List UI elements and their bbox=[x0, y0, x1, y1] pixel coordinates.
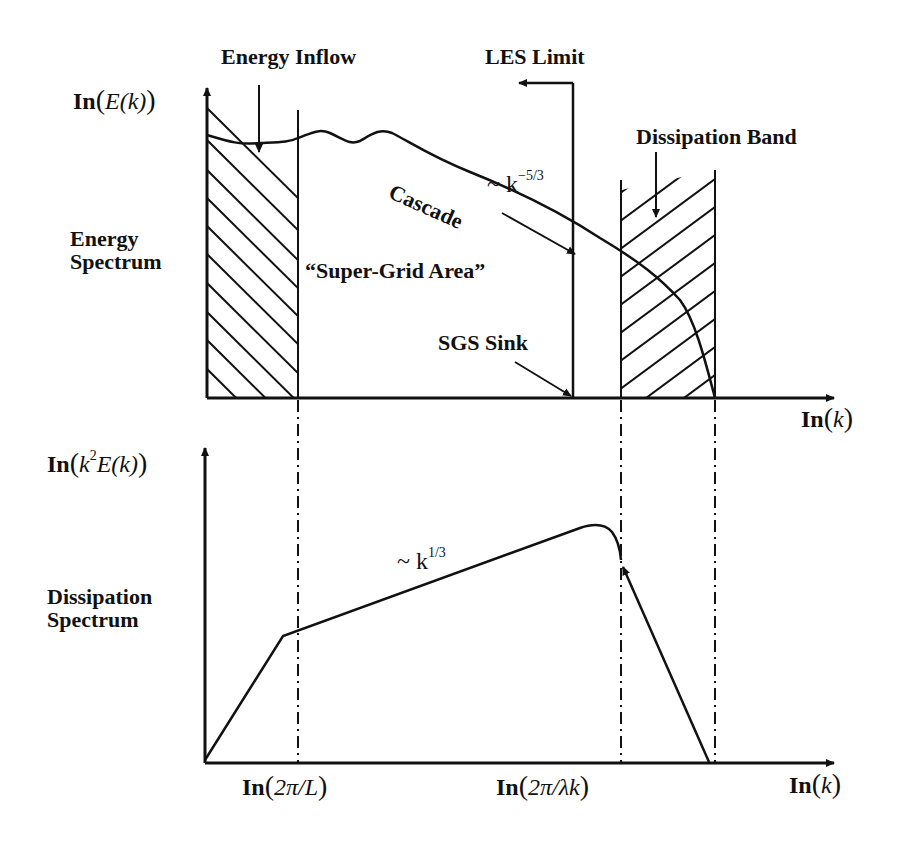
bottom-x-axis-label: In(k) bbox=[789, 768, 841, 800]
top-y-axis-label: In(E(k)) bbox=[73, 84, 156, 116]
cascade-arrow bbox=[502, 213, 575, 254]
dissipation-drop-line bbox=[623, 567, 709, 762]
tick-label-2pi-over-L: In(2π/L) bbox=[242, 770, 327, 802]
dash-dot-guides bbox=[298, 400, 715, 763]
sgs-sink-arrow bbox=[515, 362, 571, 396]
les-limit-label: LES Limit bbox=[485, 45, 585, 68]
energy-inflow-label: Energy Inflow bbox=[221, 45, 356, 68]
sgs-sink-label: SGS Sink bbox=[438, 331, 528, 354]
bottom-y-axis-label: In(k2E(k)) bbox=[47, 447, 147, 479]
top-x-axis-label: In(k) bbox=[801, 402, 853, 434]
tick-label-2pi-over-lambda-k: In(2π/λk) bbox=[496, 770, 589, 802]
super-grid-area-label: “Super-Grid Area” bbox=[305, 259, 485, 282]
energy-spectrum-label: Energy Spectrum bbox=[70, 227, 162, 273]
dissipation-band-label: Dissipation Band bbox=[636, 125, 797, 148]
slope-one-third: ~ k1/3 bbox=[397, 545, 446, 575]
dissipation-spectrum-panel bbox=[205, 448, 834, 763]
energy-inflow-hatch bbox=[207, 108, 320, 481]
slope-minus-five-thirds: ~ k−5/3 bbox=[487, 168, 544, 198]
dissipation-spectrum-label: Dissipation Spectrum bbox=[47, 585, 152, 631]
